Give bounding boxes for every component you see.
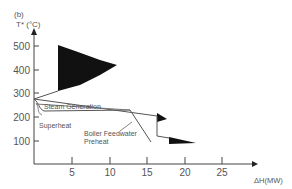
panel-label: (b): [14, 10, 24, 19]
y-tick-label-100: 100: [13, 136, 30, 147]
x-tick-label-15: 15: [141, 167, 153, 178]
x-ticks: [72, 157, 222, 164]
x-tick-label-5: 5: [69, 167, 75, 178]
gcc-segment-upper: [34, 91, 58, 99]
pocket-low: [169, 137, 196, 144]
y-tick-label-500: 500: [13, 41, 30, 52]
steam-generation-label: Steam Generation: [44, 103, 101, 110]
grand-composite-chart: 500 400 300 200 100 5 10 15 20 25 (b) T*…: [0, 0, 292, 189]
y-tick-label-400: 400: [13, 65, 30, 76]
x-axis-arrow-icon: [252, 161, 258, 167]
feedwater-label-line1: Boiler Feedwater: [84, 130, 138, 137]
pocket-high-temp: [58, 45, 117, 91]
gcc-step: [157, 136, 169, 138]
superheat-label: Superheat: [39, 122, 71, 130]
x-tick-label-25: 25: [216, 167, 228, 178]
x-axis-label: ΔH(MW): [254, 176, 283, 185]
feedwater-label-line2: Preheat: [84, 138, 109, 145]
pocket-mid: [157, 113, 167, 122]
x-tick-label-20: 20: [179, 167, 191, 178]
x-tick-label-10: 10: [104, 167, 116, 178]
y-axis-arrow-icon: [31, 28, 37, 35]
y-tick-label-200: 200: [13, 112, 30, 123]
y-axis-label: T* (°C): [16, 20, 41, 29]
y-tick-label-300: 300: [13, 88, 30, 99]
